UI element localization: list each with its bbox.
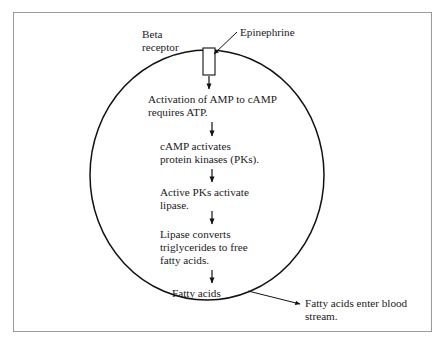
epinephrine-leader-line [214,32,237,54]
step-activation-of-amp: Activation of AMP to cAMP requires ATP. [148,93,277,119]
diagram-canvas [0,0,446,346]
step-fatty-acids: Fatty acids [172,287,221,300]
step-active-pks-activate-lipase: Active PKs activate lipase. [160,186,249,212]
beta-receptor-box [203,48,215,75]
label-fatty-acids-enter-bloodstream: Fatty acids enter blood stream. [305,297,407,323]
diagram-page: Beta receptor Epinephrine Activation of … [0,0,446,346]
label-epinephrine: Epinephrine [240,26,295,39]
step-lipase-converts-triglycerides: Lipase converts triglycerides to free fa… [160,228,248,267]
step-camp-activates-protein-kinases: cAMP activates protein kinases (PKs). [160,140,259,166]
arrow-fattyacids-to-bloodstream [248,291,300,304]
label-beta-receptor: Beta receptor [142,28,179,54]
